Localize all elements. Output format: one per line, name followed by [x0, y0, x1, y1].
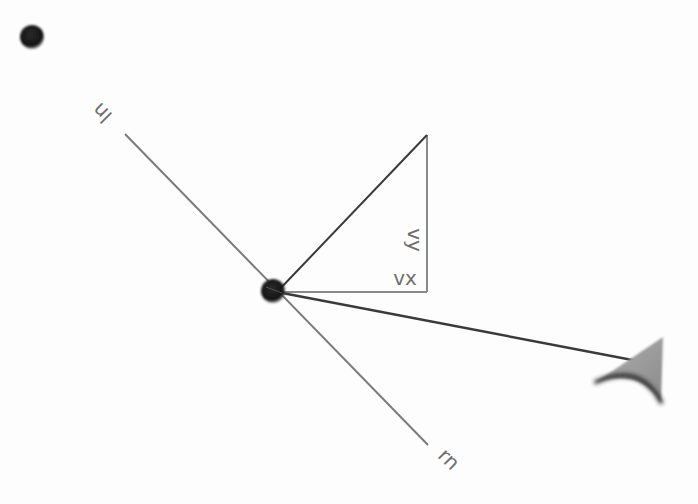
label-right-normal: rn: [433, 443, 464, 474]
small-ball: [20, 25, 44, 49]
label-vy: vy: [403, 228, 427, 252]
vector-diagram: ln rn vx vy: [0, 0, 698, 504]
center-ball: [261, 279, 285, 303]
arrowhead-icon: [596, 337, 663, 402]
label-vx: vx: [393, 266, 417, 290]
label-left-normal: ln: [87, 98, 117, 128]
velocity-line: [277, 292, 648, 363]
